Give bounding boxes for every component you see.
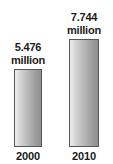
bar-group-2010: 7.744 million 2010: [58, 11, 110, 164]
bar-value-number-2000: 5.476: [11, 41, 45, 54]
bar-chart: 5.476 million 2000 7.744 million 2010: [0, 0, 113, 164]
bar-value-unit-2000: million: [11, 54, 45, 67]
bar-2000: [14, 69, 42, 147]
bar-value-label-2000: 5.476 million: [11, 41, 45, 66]
bar-value-number-2010: 7.744: [67, 11, 101, 24]
bar-value-label-2010: 7.744 million: [67, 11, 101, 36]
x-axis-label-2010: 2010: [72, 150, 96, 164]
bar-value-unit-2010: million: [67, 24, 101, 37]
x-axis-label-2000: 2000: [16, 150, 40, 164]
bar-2010: [69, 39, 99, 147]
bar-group-2000: 5.476 million 2000: [3, 41, 53, 164]
